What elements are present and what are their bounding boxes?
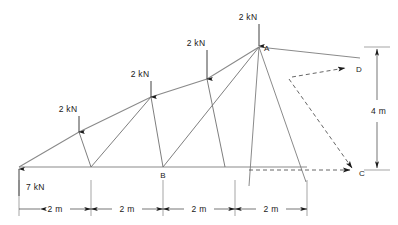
load-label-3: 2 kN <box>187 38 206 48</box>
node-label-b: B <box>160 171 165 180</box>
force-polygon-overlay <box>249 47 360 186</box>
horizontal-dimensions: 2 m 2 m 2 m 2 m <box>19 180 307 216</box>
web-member-1 <box>79 132 91 167</box>
dim-label-1: 2 m <box>47 204 62 214</box>
dim-label-height: 4 m <box>371 106 386 116</box>
node-labels: A B C D <box>160 44 365 180</box>
vertical-dimension: 4 m <box>364 47 390 170</box>
top-chord <box>19 47 259 167</box>
dashed-arrow-to-d <box>292 68 345 77</box>
node-label-a: A <box>264 44 270 53</box>
dashed-arrow-to-c <box>289 79 352 168</box>
dim-label-4: 2 m <box>263 204 278 214</box>
load-label-4: 2 kN <box>239 12 258 22</box>
truss-diagram: 2 kN 2 kN 2 kN 2 kN 7 kN A B C D <box>0 0 398 225</box>
web-member-4 <box>163 47 259 167</box>
load-label-2: 2 kN <box>131 69 150 79</box>
web-member-3 <box>151 97 163 167</box>
diagram-canvas: 2 kN 2 kN 2 kN 2 kN 7 kN A B C D <box>0 0 398 225</box>
ray-left-lower <box>249 47 259 186</box>
support-reaction: 7 kN <box>19 169 45 196</box>
dim-label-2: 2 m <box>119 204 134 214</box>
reaction-label: 7 kN <box>26 182 45 192</box>
load-label-1: 2 kN <box>59 104 78 114</box>
ray-to-d <box>259 47 360 58</box>
applied-loads: 2 kN 2 kN 2 kN 2 kN <box>59 12 259 132</box>
web-member-2 <box>91 97 151 167</box>
node-label-c: C <box>359 169 365 178</box>
ray-right-lower <box>259 47 306 182</box>
node-label-d: D <box>356 65 362 74</box>
dim-label-3: 2 m <box>191 204 206 214</box>
